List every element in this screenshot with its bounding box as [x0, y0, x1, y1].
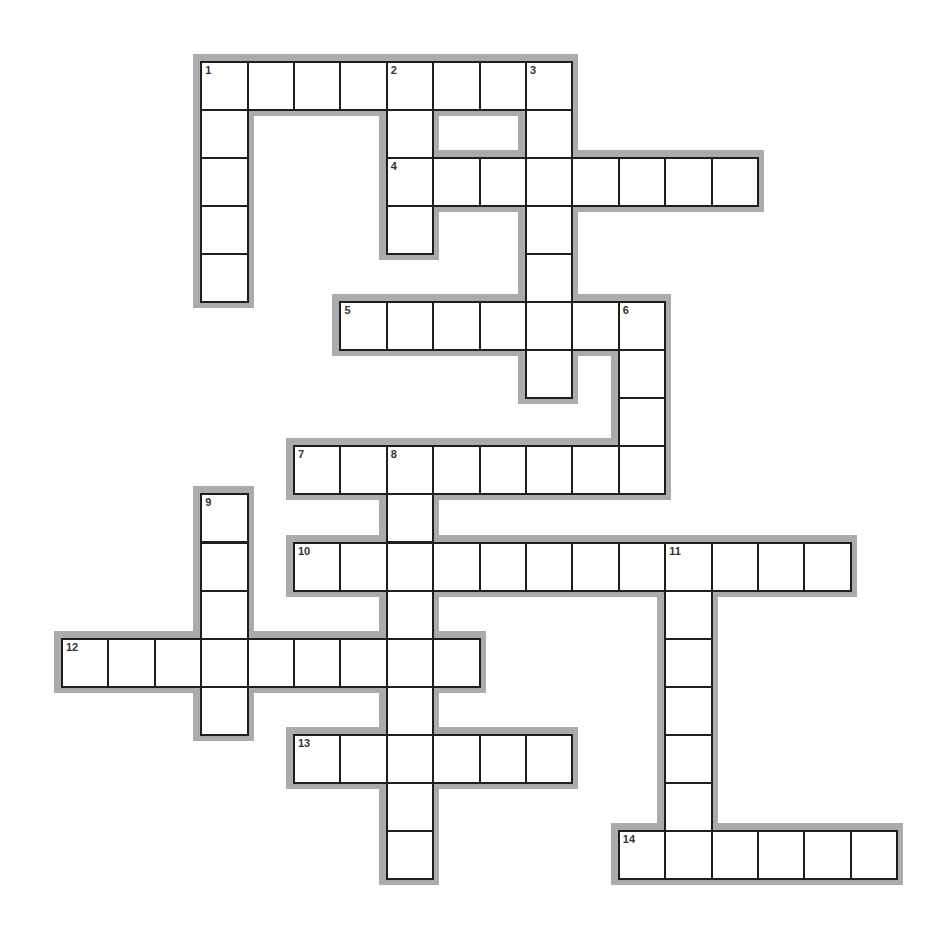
cell-letter-input[interactable] — [341, 63, 385, 109]
crossword-cell[interactable] — [154, 638, 202, 688]
crossword-cell[interactable] — [711, 830, 759, 880]
crossword-cell[interactable]: 1 — [200, 61, 248, 111]
crossword-cell[interactable] — [525, 542, 573, 592]
crossword-cell[interactable] — [803, 830, 851, 880]
cell-letter-input[interactable] — [527, 255, 571, 301]
crossword-cell[interactable] — [618, 349, 666, 399]
cell-letter-input[interactable] — [388, 111, 432, 157]
cell-letter-input[interactable] — [434, 159, 478, 205]
cell-letter-input[interactable] — [620, 159, 664, 205]
cell-letter-input[interactable] — [202, 159, 246, 205]
cell-letter-input[interactable] — [527, 159, 571, 205]
crossword-cell[interactable] — [664, 782, 712, 832]
crossword-cell[interactable] — [711, 542, 759, 592]
crossword-cell[interactable] — [664, 157, 712, 207]
crossword-cell[interactable] — [571, 445, 619, 495]
cell-letter-input[interactable] — [666, 544, 710, 590]
cell-letter-input[interactable] — [620, 399, 664, 445]
crossword-cell[interactable]: 11 — [664, 542, 712, 592]
cell-letter-input[interactable] — [527, 736, 571, 782]
cell-letter-input[interactable] — [388, 159, 432, 205]
cell-letter-input[interactable] — [666, 688, 710, 734]
cell-letter-input[interactable] — [341, 736, 385, 782]
crossword-cell[interactable] — [247, 61, 295, 111]
crossword-cell[interactable]: 13 — [293, 734, 341, 784]
cell-letter-input[interactable] — [388, 736, 432, 782]
crossword-cell[interactable] — [479, 734, 527, 784]
cell-letter-input[interactable] — [388, 303, 432, 349]
crossword-cell[interactable] — [386, 734, 434, 784]
crossword-cell[interactable] — [757, 830, 805, 880]
crossword-cell[interactable]: 3 — [525, 61, 573, 111]
crossword-cell[interactable] — [432, 301, 480, 351]
cell-letter-input[interactable] — [202, 495, 246, 541]
cell-letter-input[interactable] — [202, 544, 246, 590]
crossword-cell[interactable] — [525, 109, 573, 159]
crossword-cell[interactable] — [618, 397, 666, 447]
crossword-cell[interactable]: 4 — [386, 157, 434, 207]
cell-letter-input[interactable] — [527, 303, 571, 349]
crossword-cell[interactable] — [525, 205, 573, 255]
cell-letter-input[interactable] — [295, 544, 339, 590]
crossword-cell[interactable] — [571, 542, 619, 592]
crossword-cell[interactable] — [386, 686, 434, 736]
cell-letter-input[interactable] — [202, 592, 246, 638]
crossword-cell[interactable] — [386, 830, 434, 880]
cell-letter-input[interactable] — [388, 207, 432, 253]
cell-letter-input[interactable] — [759, 544, 803, 590]
cell-letter-input[interactable] — [249, 640, 293, 686]
cell-letter-input[interactable] — [434, 447, 478, 493]
crossword-cell[interactable] — [293, 61, 341, 111]
crossword-cell[interactable] — [386, 590, 434, 640]
cell-letter-input[interactable] — [481, 447, 525, 493]
crossword-cell[interactable]: 9 — [200, 493, 248, 543]
crossword-cell[interactable] — [432, 734, 480, 784]
crossword-cell[interactable] — [479, 157, 527, 207]
crossword-cell[interactable] — [200, 157, 248, 207]
crossword-cell[interactable] — [664, 830, 712, 880]
crossword-cell[interactable] — [757, 542, 805, 592]
crossword-cell[interactable] — [664, 734, 712, 784]
cell-letter-input[interactable] — [573, 159, 617, 205]
crossword-cell[interactable]: 2 — [386, 61, 434, 111]
crossword-cell[interactable] — [293, 638, 341, 688]
cell-letter-input[interactable] — [202, 111, 246, 157]
cell-letter-input[interactable] — [481, 736, 525, 782]
cell-letter-input[interactable] — [666, 784, 710, 830]
cell-letter-input[interactable] — [481, 544, 525, 590]
cell-letter-input[interactable] — [295, 447, 339, 493]
crossword-cell[interactable] — [386, 493, 434, 543]
cell-letter-input[interactable] — [249, 63, 293, 109]
cell-letter-input[interactable] — [620, 351, 664, 397]
cell-letter-input[interactable] — [666, 592, 710, 638]
crossword-cell[interactable] — [339, 542, 387, 592]
crossword-cell[interactable] — [339, 638, 387, 688]
crossword-cell[interactable] — [525, 301, 573, 351]
crossword-cell[interactable] — [247, 638, 295, 688]
cell-letter-input[interactable] — [620, 832, 664, 878]
crossword-cell[interactable] — [479, 445, 527, 495]
cell-letter-input[interactable] — [434, 63, 478, 109]
crossword-cell[interactable] — [525, 157, 573, 207]
cell-letter-input[interactable] — [388, 447, 432, 493]
crossword-cell[interactable] — [571, 157, 619, 207]
cell-letter-input[interactable] — [620, 447, 664, 493]
cell-letter-input[interactable] — [434, 544, 478, 590]
cell-letter-input[interactable] — [666, 832, 710, 878]
cell-letter-input[interactable] — [295, 63, 339, 109]
cell-letter-input[interactable] — [573, 447, 617, 493]
crossword-cell[interactable] — [200, 542, 248, 592]
cell-letter-input[interactable] — [481, 303, 525, 349]
cell-letter-input[interactable] — [666, 640, 710, 686]
crossword-cell[interactable] — [525, 445, 573, 495]
cell-letter-input[interactable] — [341, 303, 385, 349]
cell-letter-input[interactable] — [527, 207, 571, 253]
crossword-cell[interactable] — [200, 638, 248, 688]
cell-letter-input[interactable] — [620, 303, 664, 349]
crossword-cell[interactable]: 8 — [386, 445, 434, 495]
crossword-cell[interactable]: 7 — [293, 445, 341, 495]
crossword-cell[interactable] — [525, 253, 573, 303]
crossword-cell[interactable] — [339, 734, 387, 784]
crossword-cell[interactable] — [107, 638, 155, 688]
crossword-cell[interactable] — [432, 157, 480, 207]
